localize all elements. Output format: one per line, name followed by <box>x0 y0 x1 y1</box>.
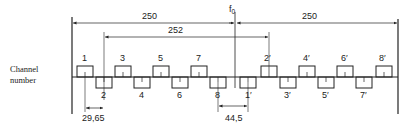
svg-text:8: 8 <box>215 90 220 100</box>
svg-text:7′: 7′ <box>360 90 367 100</box>
offset-span-label: 252 <box>168 25 183 35</box>
svg-text:4: 4 <box>139 90 144 100</box>
channel-6-prime: 6′ <box>337 53 353 77</box>
svg-text:6′: 6′ <box>341 53 348 63</box>
channel-plan-diagram: Channel number f0 250 250 252 1 2 3 4 5 … <box>0 0 408 129</box>
svg-text:3′: 3′ <box>284 90 291 100</box>
channel-4: 4 <box>134 77 150 100</box>
channel-6: 6 <box>172 77 188 100</box>
svg-text:2′: 2′ <box>264 53 271 63</box>
right-span-label: 250 <box>302 11 317 21</box>
channel-7: 7 <box>191 53 207 77</box>
svg-text:2: 2 <box>101 90 106 100</box>
channel-3: 3 <box>115 53 131 77</box>
svg-text:4′: 4′ <box>303 53 310 63</box>
channel-8-prime: 8′ <box>376 53 392 77</box>
svg-text:7: 7 <box>196 53 201 63</box>
svg-text:5: 5 <box>158 53 163 63</box>
center-frequency-label: f0 <box>229 4 236 15</box>
channel-3-prime: 3′ <box>280 77 296 100</box>
side-label-line1: Channel <box>10 64 39 74</box>
channel-spacing-label: 29,65 <box>82 113 105 123</box>
svg-text:1′: 1′ <box>245 90 252 100</box>
left-span-label: 250 <box>142 11 157 21</box>
channel-4-prime: 4′ <box>299 53 315 77</box>
channel-5-prime: 5′ <box>318 77 334 100</box>
side-label-line2: number <box>10 75 36 85</box>
svg-text:8′: 8′ <box>379 53 386 63</box>
channel-7-prime: 7′ <box>356 77 372 100</box>
channel-1: 1 <box>77 53 93 77</box>
channel-2: 2 <box>96 77 112 100</box>
svg-text:5′: 5′ <box>322 90 329 100</box>
svg-text:6: 6 <box>177 90 182 100</box>
svg-text:1: 1 <box>82 53 87 63</box>
channel-5: 5 <box>153 53 169 77</box>
center-gap-label: 44,5 <box>225 113 243 123</box>
svg-text:3: 3 <box>120 53 125 63</box>
